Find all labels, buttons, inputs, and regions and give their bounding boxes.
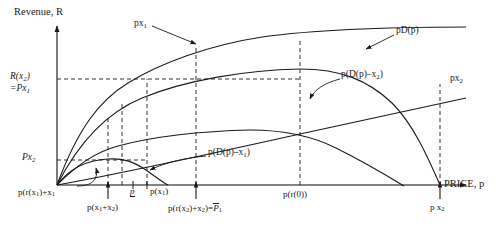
revenue-price-diagram: Revenue, R PRICE, p R(x2) =Px1 Px2 px1 p… bbox=[0, 0, 497, 227]
curve-pD-minus-x2 bbox=[57, 130, 404, 186]
axis-lines bbox=[57, 26, 466, 185]
y-tick-label-eq-Px1: =Px1 bbox=[10, 84, 30, 94]
curve-px1 bbox=[57, 27, 466, 185]
y-axis-title: Revenue, R bbox=[14, 6, 63, 17]
diagram-canvas bbox=[0, 0, 497, 227]
x-tick-label-p-x2-bottom: p x2 bbox=[430, 203, 444, 213]
arrow-px1 bbox=[152, 26, 196, 44]
curve-pD-minus-x1 bbox=[57, 159, 168, 185]
arrow-pD-of-p bbox=[366, 35, 394, 49]
curve-label-pD-of-p: pD(p) bbox=[396, 26, 419, 36]
x-tick-label-p-r-x2-plus-x2: p(r(x2)+x2)=P1 bbox=[168, 203, 222, 214]
curve-pD-of-p bbox=[57, 69, 440, 185]
x-tick-label-p-r-x1-plus-x1: p(r(x1)+x1 bbox=[18, 188, 55, 198]
x-axis-title: PRICE, p bbox=[444, 178, 484, 189]
arrow-pD-minus-x2 bbox=[310, 79, 340, 99]
x-tick-label-p-underbar: p bbox=[130, 187, 135, 197]
x-tick-label-p-x1: p(x1) bbox=[150, 187, 168, 197]
arrow-pD-minus-x1 bbox=[150, 156, 206, 170]
x-tick-label-p-x1-plus-x2: p(x1+x2) bbox=[87, 203, 118, 213]
y-tick-label-R-x2: R(x2) bbox=[10, 72, 30, 82]
curve-label-px1: px1 bbox=[134, 19, 147, 29]
curves bbox=[57, 27, 466, 186]
dashed-guides bbox=[57, 40, 440, 185]
curve-label-pD-minus-x2: p(D(p)–x2) bbox=[341, 70, 383, 80]
curve-label-pD-minus-x1: p(D(p)–x1) bbox=[208, 148, 250, 158]
x-tick-label-p-r-0: p(r(0)) bbox=[283, 190, 307, 199]
callout-arrows bbox=[77, 26, 394, 186]
curve-label-px2: px2 bbox=[450, 74, 463, 84]
y-tick-label-Px2: Px2 bbox=[22, 153, 35, 163]
arrow-p-r-x1-plus-x1 bbox=[77, 168, 97, 186]
